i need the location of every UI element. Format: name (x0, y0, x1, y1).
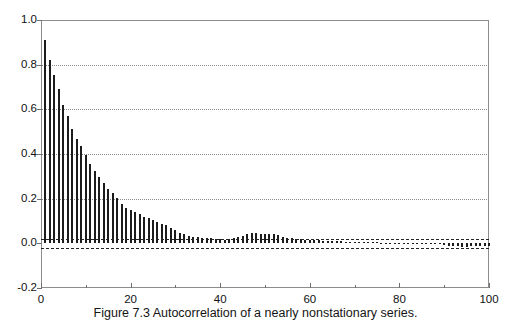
x-tick-label: 80 (379, 294, 419, 306)
figure-caption: Figure 7.3 Autocorrelation of a nearly n… (0, 306, 511, 320)
figure-container: 1.00.80.60.40.20.0-0.2 020406080100 Figu… (0, 0, 511, 329)
x-tick-label: 40 (200, 294, 240, 306)
x-tick-label: 20 (111, 294, 151, 306)
x-tick-label: 0 (21, 294, 61, 306)
x-tick-label: 60 (290, 294, 330, 306)
x-tick-label: 100 (469, 294, 509, 306)
x-axis-tick-labels: 020406080100 (0, 0, 511, 329)
